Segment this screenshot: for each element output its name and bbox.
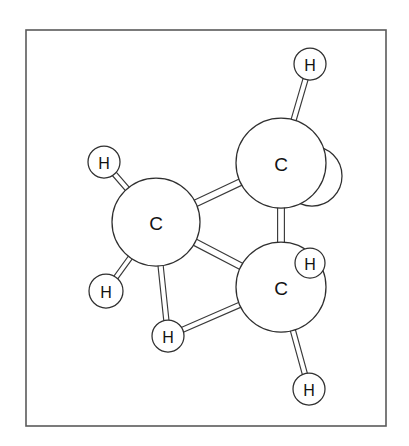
atom-label-h1: H: [304, 57, 316, 74]
bond-c3-h5: [174, 299, 248, 335]
atom-h6: H: [293, 373, 325, 405]
molecule-diagram: CCCHHHHHH: [0, 0, 409, 446]
atom-label-c1: C: [149, 213, 163, 234]
atom-h5: H: [152, 320, 184, 352]
figure-border: [26, 30, 386, 426]
atom-label-h3: H: [100, 284, 112, 301]
atom-label-h2: H: [98, 155, 110, 172]
atom-h2: H: [88, 146, 120, 178]
atom-h1: H: [294, 48, 326, 80]
bond-c1-h5: [157, 258, 170, 329]
atom-label-h6: H: [303, 382, 315, 399]
atom-label-c2: C: [274, 154, 288, 175]
molecule-figure-canvas: CCCHHHHHH: [0, 0, 409, 446]
atom-layer: CCCHHHHHH: [88, 48, 326, 405]
atom-label-h5: H: [162, 329, 174, 346]
atom-h4: H: [295, 248, 325, 278]
atom-c2: C: [236, 118, 326, 208]
atom-c1: C: [112, 178, 200, 266]
atom-label-c3: C: [274, 278, 288, 299]
atom-h3: H: [89, 274, 123, 308]
atom-label-h4: H: [304, 256, 316, 273]
